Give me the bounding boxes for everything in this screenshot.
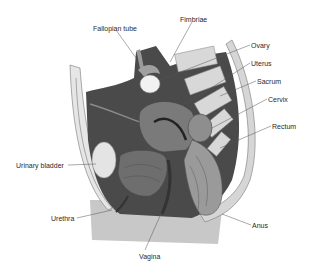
- label-ovary: Ovary: [251, 42, 270, 50]
- label-fallopian-tube: Fallopian tube: [93, 25, 137, 33]
- label-sacrum: Sacrum: [257, 78, 281, 86]
- label-rectum: Rectum: [272, 123, 296, 131]
- label-uterus: Uterus: [251, 60, 272, 68]
- ovary: [140, 75, 160, 93]
- label-urethra: Urethra: [51, 215, 74, 223]
- pubic-bone: [92, 142, 116, 178]
- cervix: [188, 114, 212, 142]
- label-fimbriae: Fimbriae: [180, 16, 207, 24]
- label-cervix: Cervix: [268, 96, 288, 104]
- label-vagina: Vagina: [139, 253, 160, 261]
- label-anus: Anus: [252, 222, 268, 230]
- label-urinary-bladder: Urinary bladder: [16, 162, 64, 170]
- pelvis-diagram: Fallopian tube Fimbriae Ovary Uterus Sac…: [0, 0, 315, 274]
